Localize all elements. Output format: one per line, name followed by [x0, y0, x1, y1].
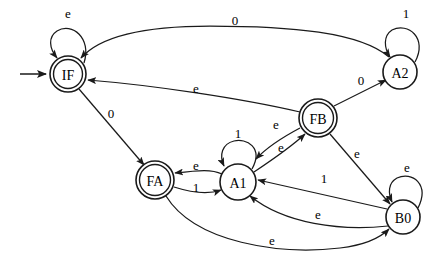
- state-machine-diagram: 0 e 0 0 e e e: [0, 0, 447, 265]
- edge-label-if-to-fa: 0: [108, 106, 115, 121]
- transition-if-self-loop: e: [51, 6, 86, 64]
- state-label-a2: A2: [391, 66, 408, 81]
- edge-label-b0-to-a1-one: 1: [321, 171, 328, 186]
- state-label-b0: B0: [395, 211, 411, 226]
- edge-label-fa-to-b0: e: [269, 233, 275, 248]
- state-node-fa[interactable]: FA: [136, 161, 174, 199]
- transition-fa-to-b0: e: [166, 196, 389, 250]
- edge-label-b0-to-a1-e: e: [315, 207, 321, 222]
- state-label-if: IF: [62, 68, 75, 83]
- transition-if-to-fa: 0: [79, 89, 144, 165]
- edge-label-fb-to-b0: e: [354, 146, 360, 161]
- edge-label-fa-to-a1: 1: [193, 180, 200, 195]
- transition-fb-to-if: e: [88, 80, 300, 112]
- edge-label-b0-self: e: [404, 160, 410, 175]
- state-node-b0[interactable]: B0: [386, 200, 420, 234]
- fsm-canvas: 0 e 0 0 e e e: [0, 0, 447, 265]
- state-node-if[interactable]: IF: [50, 56, 86, 92]
- transition-b0-to-a1-one: 1: [258, 171, 387, 210]
- edge-path-a2-to-if: [81, 26, 389, 58]
- edge-label-a1-to-fb: e: [278, 140, 284, 155]
- state-node-a1[interactable]: A1: [220, 164, 256, 200]
- state-label-fa: FA: [147, 174, 165, 189]
- edge-path-fb-to-b0: [330, 134, 390, 204]
- edge-label-fb-to-a2: 0: [358, 73, 365, 88]
- edge-path-fa-to-b0: [166, 196, 389, 250]
- transition-fb-to-a2: 0: [334, 73, 386, 107]
- edge-label-if-self: e: [65, 6, 71, 21]
- transition-fb-to-b0: e: [330, 134, 390, 204]
- transition-a2-to-if: 0: [81, 13, 389, 59]
- transition-a2-self-loop: 1: [385, 6, 419, 63]
- transition-fa-to-a1: 1: [174, 180, 221, 195]
- state-node-fb[interactable]: FB: [299, 99, 337, 137]
- edge-label-a2-to-if: 0: [232, 13, 239, 28]
- edge-label-a1-to-fa: e: [193, 158, 199, 173]
- transition-a1-self-loop: 1: [222, 126, 256, 170]
- state-label-a1: A1: [229, 176, 246, 191]
- edge-label-a2-self: 1: [403, 6, 410, 21]
- edge-label-fb-to-if: e: [193, 81, 199, 96]
- edge-label-a1-self: 1: [235, 126, 242, 141]
- edge-label-fb-to-a1: e: [273, 117, 279, 132]
- state-node-a2[interactable]: A2: [383, 55, 417, 89]
- edge-path-if-to-fa: [79, 89, 144, 165]
- transition-b0-to-a1-e: e: [250, 196, 388, 227]
- state-label-fb: FB: [309, 112, 326, 127]
- transition-a1-to-fa: e: [175, 158, 222, 175]
